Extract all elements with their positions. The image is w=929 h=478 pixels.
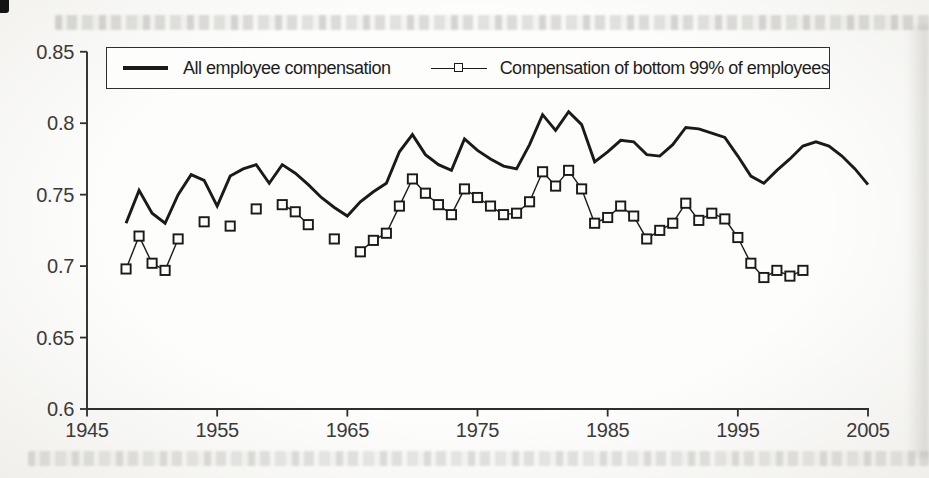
open-square-marker <box>421 189 430 198</box>
y-tick-label: 0.6 <box>47 398 74 420</box>
y-tick-label: 0.85 <box>36 41 74 63</box>
y-tick-label: 0.75 <box>36 184 74 206</box>
labor-share-line-chart: 0.850.80.750.70.650.61945195519651975198… <box>0 0 929 478</box>
solid-line-swatch <box>123 66 168 70</box>
legend-label-bottom-99: Compensation of bottom 99% of employees <box>500 58 830 79</box>
open-square-marker <box>720 214 729 223</box>
open-square-marker <box>356 247 365 256</box>
legend-label-all-employees: All employee compensation <box>183 58 391 79</box>
x-tick-label: 2005 <box>846 419 889 441</box>
open-square-marker <box>785 272 794 281</box>
open-square-marker <box>304 220 313 229</box>
open-square-marker <box>616 201 625 210</box>
open-square-marker <box>369 236 378 245</box>
y-tick-label: 0.8 <box>47 112 74 134</box>
open-square-marker <box>551 181 560 190</box>
open-square-marker <box>382 229 391 238</box>
chart-legend: All employee compensation Compensation o… <box>106 47 830 89</box>
series-all-employee-compensation <box>126 112 868 223</box>
open-square-marker <box>174 234 183 243</box>
open-square-marker <box>499 210 508 219</box>
open-square-marker <box>668 219 677 228</box>
open-square-marker <box>681 199 690 208</box>
open-square-marker <box>746 259 755 268</box>
open-square-marker <box>525 197 534 206</box>
y-tick-label: 0.7 <box>47 255 74 277</box>
x-tick-label: 1975 <box>456 419 499 441</box>
x-tick-label: 1995 <box>716 419 759 441</box>
open-square-marker <box>200 217 209 226</box>
x-axis-ticks: 1945195519651975198519952005 <box>65 409 889 441</box>
open-square-marker <box>772 266 781 275</box>
open-square-marker <box>408 174 417 183</box>
open-square-marker <box>395 201 404 210</box>
open-square-marker <box>707 209 716 218</box>
open-square-marker <box>629 211 638 220</box>
open-square-marker <box>226 221 235 230</box>
axes <box>87 52 869 409</box>
open-square-marker <box>590 219 599 228</box>
square-marker-swatch <box>431 63 487 74</box>
open-square-marker <box>134 231 143 240</box>
open-square-marker <box>759 273 768 282</box>
open-square-marker <box>278 200 287 209</box>
open-square-marker <box>642 234 651 243</box>
open-square-marker <box>694 216 703 225</box>
open-square-marker <box>473 193 482 202</box>
scanned-book-page: 0.850.80.750.70.650.61945195519651975198… <box>0 0 929 478</box>
open-square-marker <box>252 204 261 213</box>
series-bottom-99-compensation <box>121 166 807 282</box>
open-square-marker <box>147 259 156 268</box>
open-square-marker <box>460 184 469 193</box>
y-axis-ticks: 0.850.80.750.70.650.6 <box>36 41 87 420</box>
x-tick-label: 1945 <box>65 419 108 441</box>
x-tick-label: 1965 <box>326 419 369 441</box>
open-square-marker <box>655 226 664 235</box>
open-square-icon <box>454 63 463 72</box>
open-square-marker <box>447 210 456 219</box>
open-square-marker <box>538 167 547 176</box>
open-square-marker <box>330 234 339 243</box>
open-square-marker <box>564 166 573 175</box>
x-tick-label: 1955 <box>196 419 239 441</box>
open-square-marker <box>121 264 130 273</box>
open-square-marker <box>291 207 300 216</box>
open-square-marker <box>733 233 742 242</box>
open-square-marker <box>798 266 807 275</box>
open-square-marker <box>512 209 521 218</box>
y-tick-label: 0.65 <box>36 327 74 349</box>
open-square-marker <box>577 184 586 193</box>
x-tick-label: 1985 <box>586 419 629 441</box>
open-square-marker <box>603 213 612 222</box>
open-square-marker <box>486 201 495 210</box>
open-square-marker <box>434 200 443 209</box>
open-square-marker <box>161 266 170 275</box>
